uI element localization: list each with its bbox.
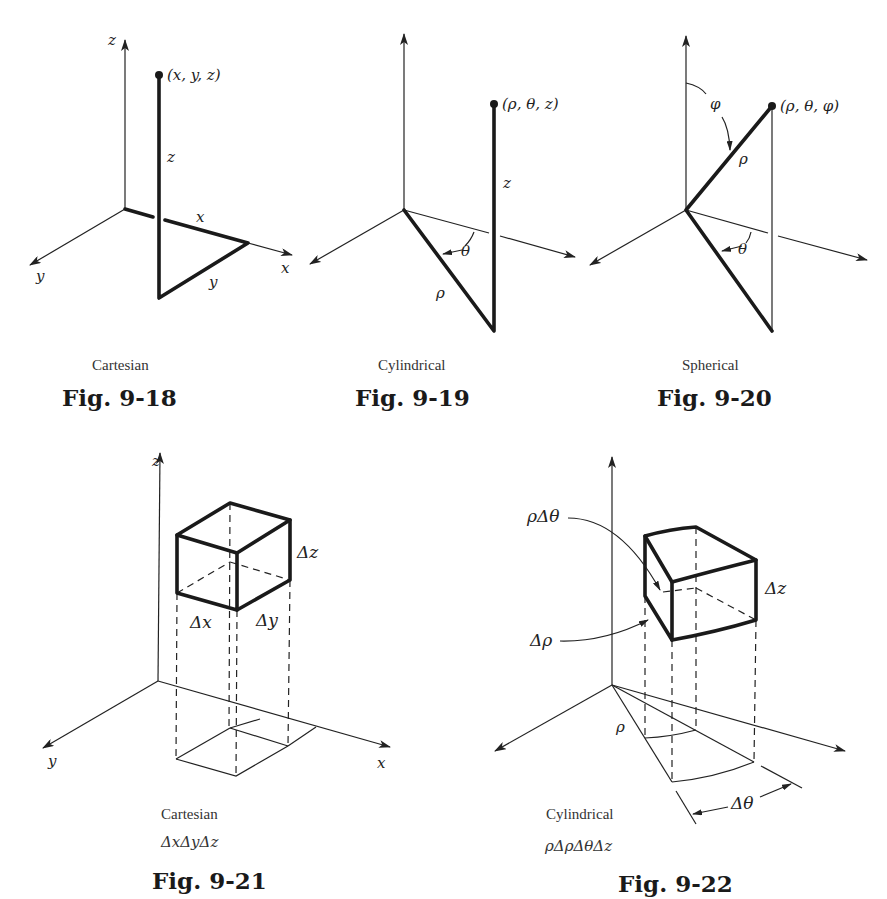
fig-9-22-formula: ρΔρΔθΔz: [544, 837, 612, 855]
dtheta-label: Δθ: [730, 793, 754, 813]
x-segment: [125, 209, 153, 217]
cube-top: [177, 503, 290, 553]
fig-9-21-number: Fig. 9-21: [152, 867, 267, 894]
inner-arc: [645, 730, 696, 738]
point-dot: [155, 71, 163, 79]
sector-edge: [612, 685, 754, 762]
x-axis: [158, 681, 390, 747]
fig-9-18-number: Fig. 9-18: [62, 384, 177, 411]
rho-label: ρ: [738, 150, 748, 168]
hidden-edge: [696, 588, 756, 620]
base-inner-edge: [230, 728, 288, 746]
rho-z-path: [404, 104, 494, 331]
point-label: (ρ, θ, z): [502, 95, 559, 113]
y-axis: [43, 681, 158, 748]
dx-label: Δx: [189, 612, 212, 632]
outer-arc: [672, 762, 754, 782]
cube-right-face: [237, 520, 290, 610]
fig-9-18-diagram: z (x, y, z) z x y x y: [30, 31, 292, 298]
hidden-edge: [230, 562, 290, 580]
y-axis: [495, 685, 612, 751]
dy-label: Δy: [255, 610, 278, 630]
x-axis: [778, 236, 867, 260]
z-axis-label: z: [107, 31, 116, 49]
dtheta-arrow-left: [693, 807, 728, 814]
x-axis: [500, 236, 575, 257]
projection-line: [754, 620, 756, 762]
base-left-edge: [176, 728, 230, 759]
rho-label: ρ: [435, 284, 445, 302]
phi-arrow: [722, 117, 730, 150]
x-axis: [248, 243, 292, 255]
cube-front-face: [177, 535, 237, 610]
z-segment-label: z: [166, 148, 175, 166]
rho-label: ρ: [615, 718, 625, 736]
point-dot: [768, 102, 776, 110]
figure-sheet: z (x, y, z) z x y x y Cartesian Fig. 9-1…: [0, 0, 887, 899]
y-axis: [590, 210, 686, 265]
dimension-tick: [676, 791, 696, 824]
y-axis: [310, 210, 404, 264]
hidden-edge: [663, 588, 696, 592]
fig-9-19-number: Fig. 9-19: [355, 384, 470, 411]
point-dot: [490, 100, 498, 108]
projection-line: [236, 610, 237, 776]
fig-9-19-caption: Cylindrical: [378, 357, 446, 373]
projection-line: [229, 503, 230, 728]
point-label: (ρ, θ, φ): [780, 97, 839, 115]
fig-9-22-number: Fig. 9-22: [618, 870, 733, 897]
fig-9-21-formula: ΔxΔyΔz: [160, 833, 218, 851]
theta-label: θ: [461, 242, 470, 260]
projection-line: [288, 580, 290, 746]
y-axis: [30, 209, 125, 265]
point-label: (x, y, z): [167, 66, 221, 84]
y-axis-label: y: [35, 267, 45, 285]
x-axis-label: x: [281, 259, 290, 277]
fig-9-22-caption: Cylindrical: [546, 806, 614, 822]
drho-label: Δρ: [529, 630, 552, 650]
rho-dtheta-label: ρΔθ: [526, 506, 560, 526]
base-back-edge: [230, 719, 260, 728]
box-top: [645, 527, 756, 582]
base-right-edge: [288, 727, 316, 746]
dimension-tick: [761, 766, 802, 788]
fig-9-18-caption: Cartesian: [92, 357, 149, 373]
y-axis-label: y: [47, 752, 57, 770]
fig-9-19-diagram: (ρ, θ, z) z θ ρ: [310, 34, 575, 331]
base-front: [176, 746, 288, 776]
fig-9-21-diagram: z Δz Δx Δy x y: [43, 452, 390, 776]
drho-arrow: [560, 620, 648, 641]
theta-arrow: [443, 250, 462, 254]
y-segment-label: y: [208, 273, 218, 291]
fig-9-20-caption: Spherical: [682, 357, 739, 373]
dz-label: Δz: [764, 578, 787, 598]
fig-9-20-diagram: φ (ρ, θ, φ) ρ θ: [590, 36, 867, 331]
z-axis: [158, 453, 160, 681]
dtheta-arrow-right: [760, 784, 791, 797]
x-segment-label: x: [196, 208, 205, 226]
phi-label: φ: [710, 95, 721, 113]
phi-arc: [686, 83, 706, 94]
x-axis-label: x: [377, 754, 386, 772]
coordinate-path: [159, 75, 248, 298]
z-segment-label: z: [502, 174, 511, 192]
projection-line: [176, 593, 177, 759]
dz-label: Δz: [296, 542, 319, 562]
hidden-edge: [177, 562, 230, 593]
fig-9-22-diagram: ρΔθ Δρ Δz ρ Δθ: [495, 457, 845, 824]
fig-9-20-number: Fig. 9-20: [657, 384, 772, 411]
z-axis-label: z: [151, 452, 160, 470]
theta-label: θ: [738, 240, 747, 258]
fig-9-21-caption: Cartesian: [161, 806, 218, 822]
